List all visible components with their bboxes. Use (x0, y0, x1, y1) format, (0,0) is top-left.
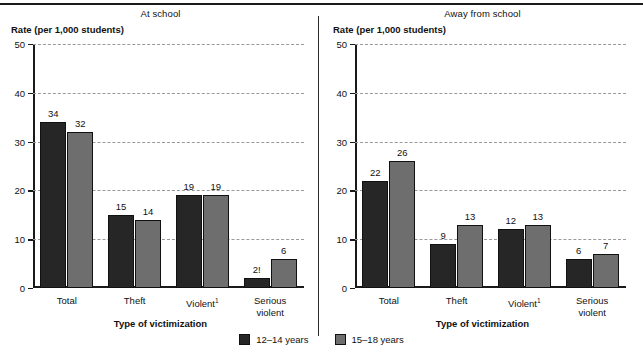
y-tick-label-20: 20 (14, 185, 25, 196)
panel-title-at-school: At school (0, 8, 321, 19)
bar (593, 254, 619, 288)
chart-legend: 12–14 years 15–18 years (0, 334, 643, 345)
plot-area-away-from-school: 01020304050 2226913121367 TotalTheftViol… (355, 44, 626, 288)
y-tick-mark-0 (28, 288, 33, 289)
legend-label-12-14-years: 12–14 years (256, 334, 308, 345)
legend-swatch-icon-12-14-years (239, 334, 250, 345)
y-tick-label-30: 30 (336, 136, 347, 147)
panel-at-school: At school Rate (per 1,000 students) 0102… (0, 0, 321, 354)
bar (67, 132, 93, 288)
bar-value-label: 14 (143, 206, 154, 217)
x-category-label: Total (57, 295, 77, 307)
bar-value-label: 19 (184, 181, 195, 192)
panel-title-away-from-school: Away from school (322, 8, 643, 19)
chart-figure: At school Rate (per 1,000 students) 0102… (0, 0, 643, 354)
bar (457, 225, 483, 288)
y-tick-label-10: 10 (14, 234, 25, 245)
x-category-label: Violent1 (186, 295, 219, 310)
x-category-label: Violent1 (508, 295, 541, 310)
bar (566, 259, 592, 288)
y-tick-label-40: 40 (14, 87, 25, 98)
bar-value-label: 34 (48, 108, 59, 119)
bar (389, 161, 415, 288)
y-tick-label-0: 0 (342, 283, 347, 294)
bar-value-label: 13 (465, 211, 476, 222)
bars-at-school: 3432151419192!6 (33, 44, 304, 288)
bar (108, 215, 134, 288)
bar (498, 229, 524, 288)
y-tick-label-0: 0 (20, 283, 25, 294)
y-tick-mark-0 (350, 288, 355, 289)
bar-value-label: 19 (211, 181, 222, 192)
bar (244, 278, 270, 288)
bar-value-label: 2! (253, 264, 261, 275)
bar (430, 244, 456, 288)
bar (135, 220, 161, 288)
plot-area-at-school: 01020304050 3432151419192!6 TotalTheftVi… (33, 44, 304, 288)
y-axis-label-left: Rate (per 1,000 students) (11, 24, 124, 35)
bar (203, 195, 229, 288)
bar-value-label: 6 (281, 245, 286, 256)
x-axis-label-left: Type of victimization (0, 318, 321, 329)
legend-item-15-18-years: 15–18 years (335, 334, 404, 345)
legend-label-15-18-years: 15–18 years (352, 334, 404, 345)
y-tick-label-50: 50 (336, 39, 347, 50)
bar-value-label: 26 (397, 147, 408, 158)
x-category-label: Seriousviolent (576, 295, 608, 318)
bar-value-label: 6 (576, 245, 581, 256)
bar (40, 122, 66, 288)
x-axis-label-right: Type of victimization (322, 318, 643, 329)
x-category-label: Theft (446, 295, 468, 307)
bar-value-label: 13 (533, 211, 544, 222)
bar-value-label: 9 (440, 230, 445, 241)
bar-value-label: 22 (370, 167, 381, 178)
y-tick-label-20: 20 (336, 185, 347, 196)
bar-value-label: 15 (116, 201, 127, 212)
legend-item-12-14-years: 12–14 years (239, 334, 308, 345)
bar-value-label: 7 (603, 240, 608, 251)
y-tick-label-40: 40 (336, 87, 347, 98)
x-category-label: Total (379, 295, 399, 307)
bar (525, 225, 551, 288)
x-category-label: Seriousviolent (254, 295, 286, 318)
bar-value-label: 12 (506, 215, 517, 226)
panel-away-from-school: Away from school Rate (per 1,000 student… (322, 0, 643, 354)
x-category-label: Theft (124, 295, 146, 307)
y-tick-label-30: 30 (14, 136, 25, 147)
bars-away-from-school: 2226913121367 (355, 44, 626, 288)
bar (176, 195, 202, 288)
bar (362, 181, 388, 288)
bar (271, 259, 297, 288)
y-axis-label-right: Rate (per 1,000 students) (333, 24, 446, 35)
legend-swatch-icon-15-18-years (335, 334, 346, 345)
y-tick-label-50: 50 (14, 39, 25, 50)
bar-value-label: 32 (75, 118, 86, 129)
y-tick-label-10: 10 (336, 234, 347, 245)
